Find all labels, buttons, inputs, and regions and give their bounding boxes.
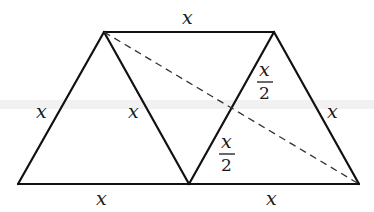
trapezoid-diagram: x x x x x x x 2 x 2 — [0, 0, 374, 212]
label-inner-left: x — [128, 100, 139, 122]
fraction-denominator: 2 — [259, 83, 270, 103]
label-upper-half-fraction: x 2 — [257, 58, 273, 103]
label-lower-half-fraction: x 2 — [219, 130, 235, 175]
scan-band — [0, 100, 374, 109]
label-bottom-left: x — [96, 187, 107, 209]
label-top: x — [182, 6, 193, 28]
fraction-denominator: 2 — [221, 155, 232, 175]
fraction-numerator: x — [221, 130, 232, 152]
label-right: x — [327, 100, 338, 122]
label-bottom-right: x — [266, 187, 277, 209]
label-left: x — [36, 100, 47, 122]
fraction-numerator: x — [259, 58, 270, 80]
